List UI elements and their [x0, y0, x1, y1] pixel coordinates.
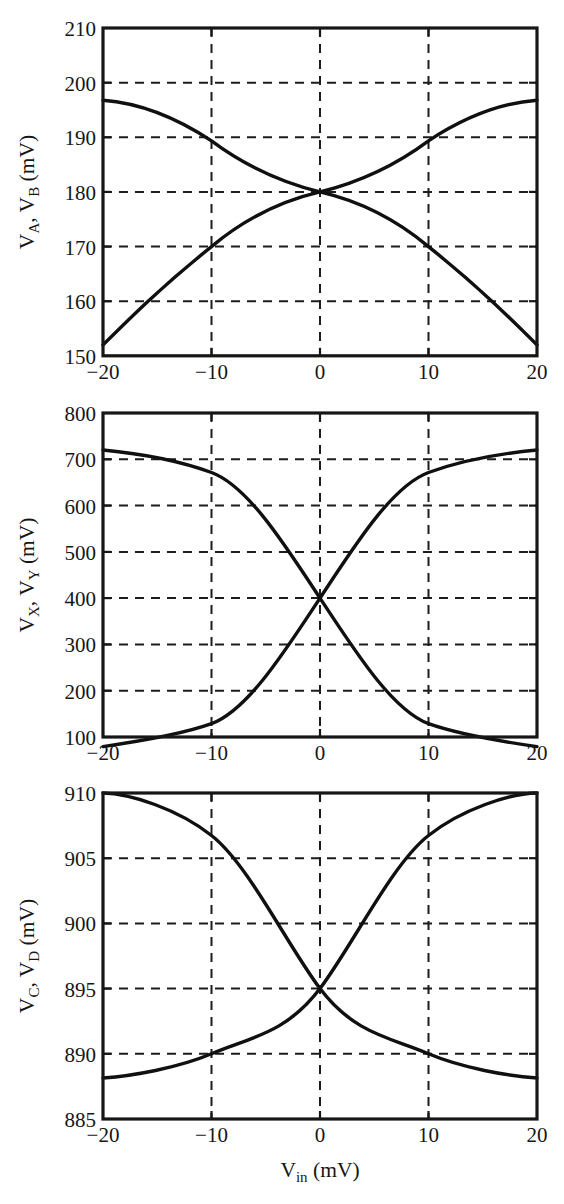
chart-3-ylabel-v1: V [15, 997, 39, 1013]
chart-1-svg: 210 200 190 180 170 160 150 −20 −10 0 10… [0, 0, 564, 400]
chart-1-ylabel-v2sub: B [26, 187, 42, 197]
chart-1-ylabel: VA, VB (mV) [15, 135, 42, 249]
chart-2-svg: 800 700 600 500 400 300 200 100 −20 −10 … [0, 385, 564, 785]
chart-2-ytick-400: 400 [65, 587, 97, 611]
chart-1-ytick-170: 170 [65, 236, 97, 260]
chart-2-xtick-10: 10 [418, 741, 439, 765]
chart-3-ytick-890: 890 [65, 1043, 97, 1067]
chart-2-ylabel-v2sub: Y [26, 569, 42, 580]
chart-1-xtick-0: 0 [315, 360, 326, 384]
chart-2-ylabel-sep: , [15, 596, 39, 606]
chart-1-xtick-m10: −10 [195, 360, 228, 384]
chart-3-xtick-10: 10 [418, 1123, 439, 1147]
chart-3-svg: 910 905 900 895 890 885 −20 −10 0 10 20 … [0, 765, 564, 1204]
chart-2-xtick-20: 20 [527, 741, 548, 765]
chart-2-ytick-800: 800 [65, 402, 97, 426]
chart-3-ytick-895: 895 [65, 978, 97, 1002]
chart-2-xtick-m20: −20 [87, 741, 120, 765]
chart-2-ylabel-v1sub: X [26, 606, 42, 617]
svg-text:VX, VY (mV): VX, VY (mV) [15, 517, 42, 632]
chart-2-ytick-500: 500 [65, 541, 97, 565]
chart-2-ytick-200: 200 [65, 680, 97, 704]
chart-3-ylabel: VC, VD (mV) [15, 899, 42, 1013]
chart-1-ytick-200: 200 [65, 72, 97, 96]
chart-3-ytick-900: 900 [65, 912, 97, 936]
chart-3-xtick-0: 0 [315, 1123, 326, 1147]
chart-3-xlabel-v: V [280, 1158, 296, 1182]
chart-3-xtick-m10: −10 [195, 1123, 228, 1147]
chart-3-ylabel-unit: (mV) [15, 899, 39, 951]
chart-1-y-ticklabels: 210 200 190 180 170 160 150 [65, 17, 97, 369]
chart-3-x-ticklabels: −20 −10 0 10 20 [87, 1123, 548, 1147]
chart-1-ylabel-v1sub: A [26, 223, 42, 234]
svg-text:VA, VB (mV): VA, VB (mV) [15, 135, 42, 249]
chart-2-ytick-700: 700 [65, 448, 97, 472]
chart-1-ylabel-unit: (mV) [15, 135, 39, 187]
chart-1-xtick-20: 20 [527, 360, 548, 384]
chart-1-ylabel-v2: V [15, 196, 39, 212]
chart-3-ylabel-sep: , [15, 977, 39, 987]
chart-1-ylabel-sep: , [15, 212, 39, 222]
chart-panel-3: 910 905 900 895 890 885 −20 −10 0 10 20 … [0, 765, 564, 1204]
chart-2-xtick-m10: −10 [195, 741, 228, 765]
chart-1-ytick-210: 210 [65, 17, 97, 41]
chart-2-ytick-300: 300 [65, 633, 97, 657]
chart-3-ylabel-v1sub: C [26, 988, 42, 998]
chart-2-ytick-600: 600 [65, 495, 97, 519]
chart-2-y-ticklabels: 800 700 600 500 400 300 200 100 [65, 402, 97, 750]
chart-2-xtick-0: 0 [315, 741, 326, 765]
chart-2-ylabel: VX, VY (mV) [15, 517, 42, 632]
chart-1-xtick-m20: −20 [87, 360, 120, 384]
svg-text:Vin (mV): Vin (mV) [280, 1158, 359, 1185]
chart-3-gridlines [103, 793, 537, 1119]
chart-3-ytick-905: 905 [65, 847, 97, 871]
chart-2-x-ticklabels: −20 −10 0 10 20 [87, 741, 548, 765]
chart-1-ylabel-v1: V [15, 233, 39, 249]
chart-3-ylabel-v2: V [15, 961, 39, 977]
chart-1-ytick-160: 160 [65, 290, 97, 314]
chart-3-y-ticklabels: 910 905 900 895 890 885 [65, 782, 97, 1132]
chart-1-ytick-190: 190 [65, 126, 97, 150]
chart-1-ytick-180: 180 [65, 181, 97, 205]
chart-3-xlabel-unit: (mV) [308, 1158, 360, 1182]
chart-1-x-ticklabels: −20 −10 0 10 20 [87, 360, 548, 384]
chart-1-xtick-10: 10 [418, 360, 439, 384]
chart-2-ylabel-v1: V [15, 617, 39, 633]
figure-three-panel-transfer-curves: 210 200 190 180 170 160 150 −20 −10 0 10… [0, 0, 564, 1204]
chart-2-ylabel-v2: V [15, 580, 39, 596]
chart-2-ylabel-unit: (mV) [15, 517, 39, 569]
chart-panel-1: 210 200 190 180 170 160 150 −20 −10 0 10… [0, 0, 564, 400]
svg-text:VC, VD (mV): VC, VD (mV) [15, 899, 42, 1013]
chart-3-xtick-m20: −20 [87, 1123, 120, 1147]
chart-3-xtick-20: 20 [527, 1123, 548, 1147]
chart-3-ylabel-v2sub: D [26, 951, 42, 962]
chart-panel-2: 800 700 600 500 400 300 200 100 −20 −10 … [0, 385, 564, 785]
chart-3-xlabel-vsub: in [296, 1169, 308, 1185]
chart-3-xlabel: Vin (mV) [280, 1158, 359, 1185]
chart-3-ytick-910: 910 [65, 782, 97, 806]
